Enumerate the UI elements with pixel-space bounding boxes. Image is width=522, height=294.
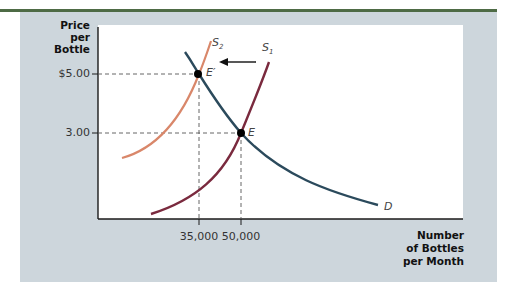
curve-label-s2-main: S	[212, 36, 219, 49]
curve-label-s2-sub: 2	[219, 43, 223, 51]
x-axis-title-line: of Bottles	[344, 242, 464, 255]
x-axis-title-line: per Month	[344, 255, 464, 268]
plot-area	[98, 25, 463, 219]
curve-label-s2: S2	[212, 36, 223, 51]
equilibrium-point-e	[237, 129, 245, 137]
equilibrium-point-e-prime	[194, 70, 202, 78]
point-label-e-prime: E′	[206, 66, 215, 79]
y-tick-label-3: 3.00	[38, 126, 90, 139]
curve-label-d: D	[384, 200, 392, 213]
y-axis-title: Price per Bottle	[30, 19, 90, 55]
y-axis-title-line: per	[30, 31, 90, 43]
x-axis-title: Number of Bottles per Month	[344, 229, 464, 268]
y-tick-label-5: $5.00	[38, 67, 90, 80]
curve-label-s1-sub: 1	[269, 48, 273, 56]
x-tick-label-50000: 50,000	[219, 230, 263, 243]
y-axis-title-line: Price	[30, 19, 90, 31]
curve-label-s1-main: S	[262, 41, 269, 54]
point-label-e: E	[248, 126, 255, 139]
curve-label-s1: S1	[262, 41, 273, 56]
x-tick-label-35000: 35,000	[177, 230, 221, 243]
x-axis-title-line: Number	[344, 229, 464, 242]
y-axis-title-line: Bottle	[30, 43, 90, 55]
